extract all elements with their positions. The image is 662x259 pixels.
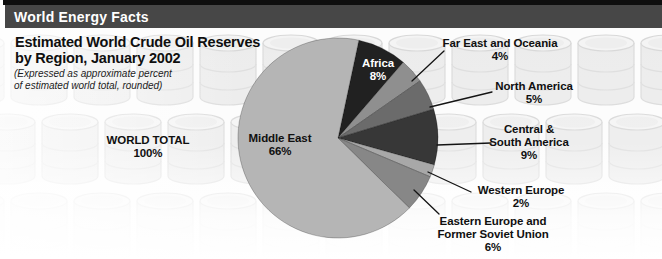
leader-line-eastern-europe-fsu: [414, 190, 439, 214]
label-far-east-and-oceania: Far East and Oceania 4%: [419, 37, 581, 63]
world-energy-facts-figure: World Energy Facts: [0, 0, 662, 259]
slice-value: 4%: [419, 50, 581, 63]
label-middle-east: Middle East 66%: [200, 132, 360, 158]
slice-value: 6%: [413, 241, 573, 254]
slice-name: North America: [454, 80, 614, 93]
slice-name-line-1: Central &: [449, 123, 609, 136]
label-western-europe: Western Europe 2%: [441, 184, 601, 210]
slice-value: 5%: [454, 93, 614, 106]
label-central-south-america: Central & South America 9%: [449, 123, 609, 162]
slice-name-line-1: Eastern Europe and: [413, 215, 573, 228]
slice-value: 2%: [441, 197, 601, 210]
label-eastern-europe-fsu: Eastern Europe and Former Soviet Union 6…: [413, 215, 573, 254]
slice-name: Middle East: [200, 132, 360, 145]
label-north-america: North America 5%: [454, 80, 614, 106]
slice-name-line-2: Former Soviet Union: [413, 228, 573, 241]
slice-name-line-2: South America: [449, 136, 609, 149]
slice-name: Far East and Oceania: [419, 37, 581, 50]
slice-value: 66%: [200, 145, 360, 158]
slice-value: 8%: [298, 70, 458, 83]
slice-value: 9%: [449, 149, 609, 162]
slice-name: Western Europe: [441, 184, 601, 197]
